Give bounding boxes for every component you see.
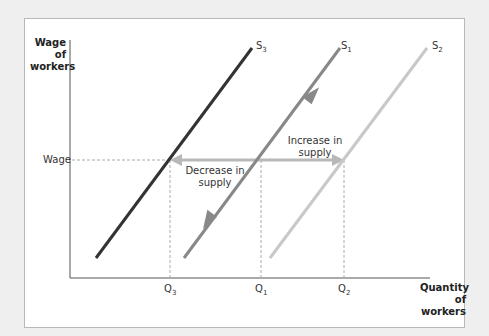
x-axis-label: Quantityof workers [420, 282, 466, 318]
increase-label: Increase insupply [280, 135, 350, 159]
decrease-label: Decrease insupply [180, 165, 250, 189]
wage-tick: Wage [43, 154, 71, 166]
y-axis-label: Wage ofworkers [30, 37, 66, 73]
s2-label: S2 [432, 40, 443, 56]
s3-label: S3 [256, 40, 267, 56]
q2-tick: Q2 [338, 283, 350, 299]
curve-s3 [96, 48, 252, 258]
q3-tick: Q3 [164, 283, 176, 299]
s1-label: S1 [341, 40, 352, 56]
q1-tick: Q1 [255, 283, 267, 299]
